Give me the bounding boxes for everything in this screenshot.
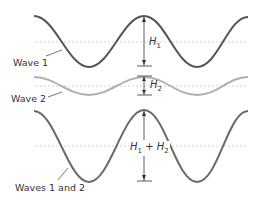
h2-label: H2: [150, 79, 162, 93]
sum-label: Waves 1 and 2: [15, 182, 85, 193]
sum-height-label: H1 + H2: [129, 141, 170, 155]
h1-sub: 1: [157, 42, 161, 50]
wave2-leader: [48, 92, 62, 97]
wave1-curve: [34, 16, 248, 67]
wave1-label: Wave 1: [13, 57, 48, 68]
h1-base: H: [149, 36, 157, 47]
wave1-leader: [46, 50, 62, 56]
plus-sign: +: [142, 141, 157, 152]
h1-label: H1: [149, 36, 161, 50]
sum-b-sub: 2: [164, 147, 168, 155]
sum-a-base: H: [130, 141, 138, 152]
h2-base: H: [150, 79, 158, 90]
sum-leader: [58, 168, 68, 180]
h2-sub: 2: [158, 85, 162, 93]
wave2-label: Wave 2: [11, 93, 46, 104]
